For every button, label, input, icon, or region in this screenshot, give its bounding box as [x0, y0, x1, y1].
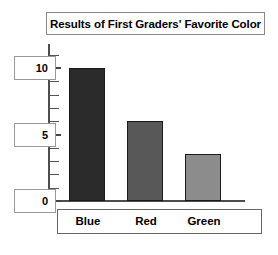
- bar-red: [127, 121, 163, 201]
- y-axis-tick-3: [50, 161, 59, 162]
- y-axis-label-5: 5: [14, 123, 56, 147]
- y-axis-tick-4: [50, 148, 59, 149]
- category-label-red: Red: [116, 210, 176, 233]
- bar-chart-figure: Results of First Graders' Favorite Color…: [0, 0, 278, 255]
- category-label-green: Green: [174, 210, 234, 233]
- bar-blue: [69, 68, 105, 201]
- bar-green: [185, 154, 221, 201]
- y-axis-label-0: 0: [14, 189, 56, 213]
- category-label-blue: Blue: [58, 210, 118, 233]
- y-axis-tick-7: [50, 108, 59, 109]
- category-label-box: BlueRedGreen: [57, 209, 262, 234]
- y-axis-tick-8: [50, 95, 59, 96]
- y-axis-label-10: 10: [14, 56, 56, 80]
- y-axis-tick-2: [50, 174, 59, 175]
- y-axis-tick-9: [50, 81, 59, 82]
